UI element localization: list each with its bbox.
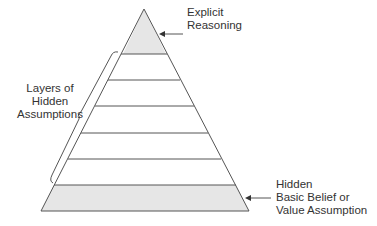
arrow-bottom-icon xyxy=(245,195,271,201)
label-line: Value Assumption xyxy=(276,204,367,217)
label-hidden-assumptions: Layers of Hidden Assumptions xyxy=(15,82,85,121)
label-line: Explicit xyxy=(187,6,242,19)
layer-basic-belief xyxy=(41,185,249,211)
label-line: Reasoning xyxy=(187,19,242,32)
layer-explicit-reasoning xyxy=(123,9,166,54)
label-line: Hidden xyxy=(276,178,367,191)
label-line: Assumptions xyxy=(15,108,85,121)
label-explicit-reasoning: Explicit Reasoning xyxy=(187,6,242,32)
label-basic-belief: Hidden Basic Belief or Value Assumption xyxy=(276,178,367,217)
label-line: Layers of xyxy=(15,82,85,95)
label-line: Hidden xyxy=(15,95,85,108)
arrow-top-icon xyxy=(159,31,183,37)
label-line: Basic Belief or xyxy=(276,191,367,204)
